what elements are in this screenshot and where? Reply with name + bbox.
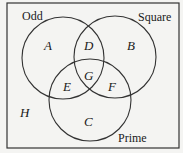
region-b: B bbox=[127, 38, 135, 53]
square-label: Square bbox=[138, 10, 171, 24]
odd-label: Odd bbox=[22, 9, 43, 23]
region-f: F bbox=[107, 79, 117, 94]
region-a: A bbox=[43, 38, 52, 53]
venn-diagram: Odd Square Prime A B C D E F G H bbox=[0, 0, 183, 153]
prime-label: Prime bbox=[118, 131, 147, 145]
region-h: H bbox=[19, 105, 30, 120]
region-d: D bbox=[83, 38, 94, 53]
region-e: E bbox=[62, 79, 71, 94]
region-g: G bbox=[84, 68, 94, 83]
region-c: C bbox=[84, 114, 93, 129]
